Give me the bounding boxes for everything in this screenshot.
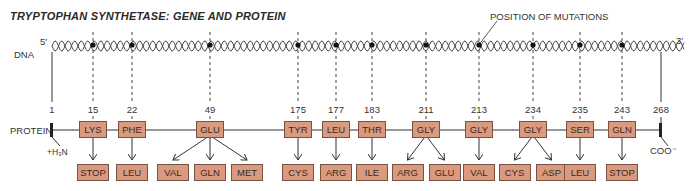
residue-position: 22 (127, 104, 138, 115)
wild-type-residue: GLU (196, 121, 224, 138)
residue-position: 243 (614, 104, 630, 115)
wild-type-residue: GLY (412, 121, 440, 138)
wild-type-residue: PHE (118, 121, 146, 138)
mutant-residue: CYS (499, 164, 531, 181)
mutant-residue: ARG (392, 164, 424, 181)
mutant-residue: GLN (194, 164, 226, 181)
mutant-residue: MET (231, 164, 263, 181)
mutant-residue: VAL (463, 164, 495, 181)
mutant-residue: ASP (536, 164, 568, 181)
mutant-residue: LEU (116, 164, 148, 181)
mutant-residue: ILE (356, 164, 388, 181)
residue-position: 213 (471, 104, 487, 115)
residue-position: 183 (364, 104, 380, 115)
mutant-residue: ARG (320, 164, 352, 181)
wild-type-residue: GLY (519, 121, 547, 138)
wild-type-residue: SER (566, 121, 594, 138)
residue-position: 49 (205, 104, 216, 115)
mutant-residue: GLU (429, 164, 461, 181)
residue-position: 211 (418, 104, 433, 115)
residue-position: 175 (290, 104, 306, 115)
mutant-residue: STOP (77, 164, 109, 181)
diagram-canvas (0, 0, 694, 191)
mutant-residue: CYS (282, 164, 314, 181)
mutant-residue: LEU (564, 164, 596, 181)
residue-position: 234 (525, 104, 541, 115)
wild-type-residue: LEU (322, 121, 350, 138)
residue-position: 15 (88, 104, 99, 115)
residue-position: 177 (328, 104, 344, 115)
wild-type-residue: THR (358, 121, 386, 138)
wild-type-residue: GLY (465, 121, 493, 138)
mutant-residue: VAL (157, 164, 189, 181)
residue-position: 235 (572, 104, 588, 115)
wild-type-residue: TYR (284, 121, 312, 138)
mutant-residue: STOP (606, 164, 638, 181)
wild-type-residue: GLN (608, 121, 636, 138)
wild-type-residue: LYS (79, 121, 107, 138)
